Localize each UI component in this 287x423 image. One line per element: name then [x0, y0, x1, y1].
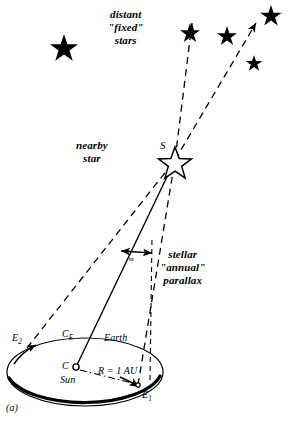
distant-star-4 [260, 5, 282, 25]
sightline-from-e1 [138, 23, 256, 385]
e1-subscript: 1 [148, 395, 152, 403]
sightline-from-e2 [27, 23, 192, 348]
label-earth: Earth [104, 332, 127, 344]
label-orbit-center-ce: CE [62, 328, 73, 342]
label-earth-position-1: E1 [142, 389, 152, 403]
distant-stars-line-3: stars [108, 34, 144, 47]
ce-subscript: E [69, 334, 74, 342]
ce-base: C [62, 328, 69, 339]
label-sun-center-c: C [62, 360, 69, 372]
parallax-line-3: parallax [160, 274, 205, 287]
label-sun: Sun [60, 374, 75, 386]
label-stellar-annual-parallax: stellar "annual" parallax [160, 248, 205, 287]
earth-marker-e1 [136, 383, 140, 387]
label-parallax-angle-symbol: ϖ [129, 255, 134, 263]
label-star-s: S [160, 139, 166, 152]
label-nearby-star: nearby star [76, 139, 108, 165]
distant-stars-line-2: "fixed" [108, 21, 144, 34]
parallax-angle-arrow [121, 251, 152, 253]
sun-marker [73, 364, 79, 370]
distant-star-5 [246, 55, 263, 71]
parallax-line-1: stellar [160, 248, 205, 261]
parallax-line-2: "annual" [160, 261, 205, 274]
panel-label: (a) [6, 402, 18, 414]
label-distant-fixed-stars: distant "fixed" stars [108, 8, 144, 47]
parallax-figure: distant "fixed" stars nearby star S stel… [0, 0, 287, 423]
parallax-diagram-svg [0, 0, 287, 423]
label-earth-position-2: E2 [12, 332, 22, 346]
distant-star-3 [217, 26, 237, 45]
nearby-star-line-1: nearby [76, 139, 108, 152]
label-radius-au: R = 1 AU [98, 365, 137, 377]
nearby-star-line-2: star [76, 152, 108, 165]
distant-star-1 [50, 34, 78, 61]
distant-stars-line-1: distant [108, 8, 144, 21]
e2-subscript: 2 [18, 338, 22, 346]
